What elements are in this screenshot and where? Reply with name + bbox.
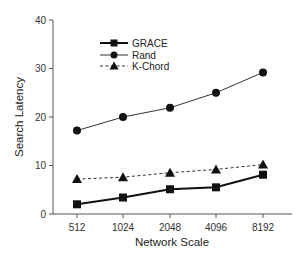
legend-item-grace: GRACE	[100, 38, 168, 49]
x-ticks: 5121024204840968192	[69, 214, 275, 233]
circle-marker-icon	[73, 127, 81, 135]
square-marker-icon	[166, 185, 174, 193]
legend: GRACERandK-Chord	[100, 38, 169, 72]
square-marker-icon	[259, 171, 267, 179]
x-tick-label: 8192	[252, 222, 275, 233]
legend-label: Rand	[132, 50, 156, 61]
circle-marker-icon	[119, 113, 127, 121]
y-tick-label: 30	[35, 63, 47, 74]
square-marker-icon	[212, 183, 220, 191]
y-tick-label: 20	[35, 112, 47, 123]
circle-marker-icon	[166, 104, 174, 112]
y-ticks: 010203040	[35, 15, 53, 220]
line-chart: 010203040 5121024204840968192 Network Sc…	[0, 0, 300, 255]
triangle-marker-icon	[258, 160, 268, 169]
series-group	[72, 68, 268, 208]
legend-item-k-chord: K-Chord	[100, 61, 169, 72]
circle-marker-icon	[212, 89, 220, 97]
y-tick-label: 40	[35, 15, 47, 26]
x-tick-label: 1024	[112, 222, 135, 233]
square-marker-icon	[111, 40, 118, 47]
y-tick-label: 0	[40, 209, 46, 220]
triangle-marker-icon	[165, 168, 175, 177]
x-axis-label: Network Scale	[135, 236, 209, 248]
circle-marker-icon	[111, 52, 118, 59]
y-axis-label: Search Latency	[13, 77, 25, 157]
triangle-marker-icon	[72, 174, 82, 183]
legend-label: K-Chord	[132, 61, 169, 72]
legend-label: GRACE	[132, 38, 168, 49]
x-tick-label: 4096	[205, 222, 228, 233]
circle-marker-icon	[259, 68, 267, 76]
triangle-marker-icon	[211, 164, 221, 173]
axes	[53, 20, 292, 214]
y-tick-label: 10	[35, 160, 47, 171]
square-marker-icon	[119, 194, 127, 202]
series-line	[77, 72, 263, 130]
x-tick-label: 512	[69, 222, 86, 233]
x-tick-label: 2048	[159, 222, 182, 233]
square-marker-icon	[73, 200, 81, 208]
series-rand	[73, 68, 267, 134]
legend-item-rand: Rand	[100, 50, 156, 61]
series-k-chord	[72, 160, 268, 184]
